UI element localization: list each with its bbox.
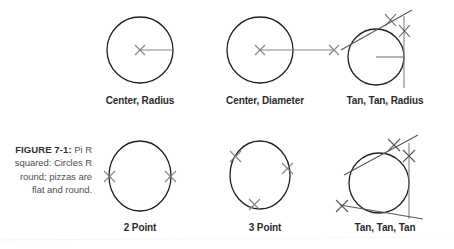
diagram-tan-tan-radius: [336, 2, 442, 92]
diagram-3-point: [224, 137, 296, 215]
figure-caption-title: FIGURE 7-1:: [15, 144, 72, 155]
diagram-label-tan-tan-tan: Tan, Tan, Tan: [320, 222, 450, 233]
tangent-line-diagonal-top: [344, 135, 418, 175]
diagram-label-center-diameter: Center, Diameter: [200, 95, 330, 106]
point-upper-left-marker-icon: [230, 151, 241, 162]
diagram-center-radius: [104, 14, 176, 86]
diagram-2-point: [104, 137, 176, 215]
diagram-label-2-point: 2 Point: [80, 222, 200, 233]
circle-outline: [230, 141, 290, 209]
diagram-label-3-point: 3 Point: [200, 222, 330, 233]
diagram-label-tan-tan-radius: Tan, Tan, Radius: [320, 95, 450, 106]
point-right-marker-icon: [282, 163, 293, 174]
tangent-line-diagonal-bottom: [340, 205, 423, 219]
page-edge-divider: [0, 237, 454, 241]
figure-container: FIGURE 7-1: Pi R squared: Circles R roun…: [0, 0, 454, 249]
diagram-label-center-radius: Center, Radius: [80, 95, 200, 106]
diagram-tan-tan-tan: [330, 133, 448, 225]
circle-outline: [349, 153, 409, 213]
figure-caption: FIGURE 7-1: Pi R squared: Circles R roun…: [6, 143, 92, 197]
tangent-upper-left-marker-icon: [388, 139, 400, 151]
circle-outline: [109, 141, 171, 211]
